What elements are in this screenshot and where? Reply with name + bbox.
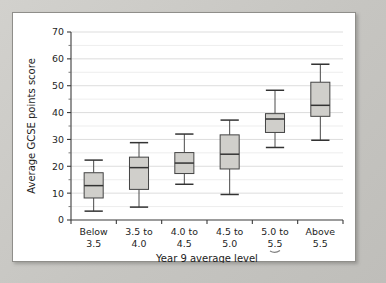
x-tick-label: 4.5 to: [216, 226, 244, 237]
y-tick-label: 30: [52, 134, 64, 145]
box-iqr: [220, 135, 239, 169]
chart-svg: 010203040506070Average GCSE points score…: [13, 13, 357, 263]
box-iqr: [129, 157, 148, 189]
screenshot-canvas: 010203040506070Average GCSE points score…: [0, 0, 386, 283]
x-tick-label: 4.0 to: [171, 226, 199, 237]
chart-card: 010203040506070Average GCSE points score…: [12, 12, 356, 262]
y-tick-label: 40: [52, 107, 64, 118]
x-tick-label: Above: [306, 226, 336, 237]
y-tick-label: 70: [52, 26, 64, 37]
x-tick-label: 3.5: [86, 238, 101, 249]
y-tick-label: 0: [58, 214, 64, 225]
pen-mark-annotation: [270, 251, 280, 253]
x-tick-label: 4.5: [177, 238, 192, 249]
box-iqr: [265, 114, 284, 133]
x-tick-label: 4.0: [132, 238, 147, 249]
x-axis-title: Year 9 average level: [155, 253, 258, 263]
y-tick-label: 60: [52, 53, 64, 64]
boxplot-chart: 010203040506070Average GCSE points score…: [13, 13, 357, 263]
x-tick-label: 5.5: [268, 238, 283, 249]
x-tick-label: 3.5 to: [125, 226, 153, 237]
y-tick-label: 20: [52, 161, 64, 172]
x-tick-label: 5.0 to: [261, 226, 289, 237]
y-tick-label: 10: [52, 188, 64, 199]
x-tick-label: 5.5: [313, 238, 328, 249]
y-axis-title: Average GCSE points score: [26, 58, 37, 194]
y-tick-label: 50: [52, 80, 64, 91]
x-tick-label: Below: [80, 226, 109, 237]
x-tick-label: 5.0: [222, 238, 237, 249]
box-iqr: [311, 82, 330, 116]
